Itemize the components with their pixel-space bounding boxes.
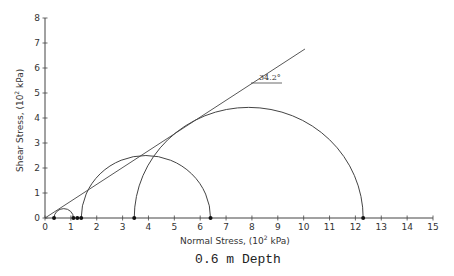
stress-point <box>132 216 136 220</box>
x-tick-label: 6 <box>197 222 203 232</box>
x-tick-label: 9 <box>275 222 281 232</box>
x-tick-label: 13 <box>376 222 387 232</box>
y-tick-label: 7 <box>34 38 40 48</box>
y-axis-label: Shear Stress, (102 kPa) <box>13 69 25 172</box>
x-tick-label: 14 <box>401 222 413 232</box>
y-tick-label: 1 <box>34 188 40 198</box>
mohr-circles <box>54 107 363 218</box>
x-tick-label: 1 <box>68 222 74 232</box>
stress-point <box>71 216 75 220</box>
x-tick-label: 3 <box>120 222 126 232</box>
x-tick-label: 4 <box>146 222 152 232</box>
x-tick-label: 7 <box>223 222 229 232</box>
y-axis-ticks: 012345678 <box>34 13 47 223</box>
y-tick-label: 5 <box>34 88 40 98</box>
x-tick-label: 15 <box>427 222 438 232</box>
x-tick-label: 2 <box>94 222 100 232</box>
x-tick-label: 12 <box>350 222 361 232</box>
mohr-circle <box>81 156 210 218</box>
x-tick-label: 0 <box>42 222 48 232</box>
chart-title: 0.6 m Depth <box>195 252 281 267</box>
x-tick-label: 11 <box>324 222 335 232</box>
y-tick-label: 3 <box>34 138 40 148</box>
y-tick-label: 0 <box>34 213 40 223</box>
x-tick-label: 8 <box>249 222 255 232</box>
stress-point <box>79 216 83 220</box>
stress-point <box>75 216 79 220</box>
angle-annotation: 34.2° <box>259 73 281 82</box>
mohr-circle <box>134 107 363 218</box>
mohr-circle-chart: 0123456789101112131415 012345678 34.2° N… <box>0 0 454 276</box>
x-tick-label: 5 <box>171 222 177 232</box>
stress-point <box>209 216 213 220</box>
y-tick-label: 6 <box>34 63 40 73</box>
axes <box>45 18 433 218</box>
stress-point <box>52 216 56 220</box>
stress-point <box>361 216 365 220</box>
x-axis-label: Normal Stress, (102 kPa) <box>180 234 290 246</box>
y-tick-label: 2 <box>34 163 40 173</box>
y-tick-label: 8 <box>34 13 40 23</box>
x-tick-label: 10 <box>298 222 310 232</box>
y-tick-label: 4 <box>34 113 40 123</box>
